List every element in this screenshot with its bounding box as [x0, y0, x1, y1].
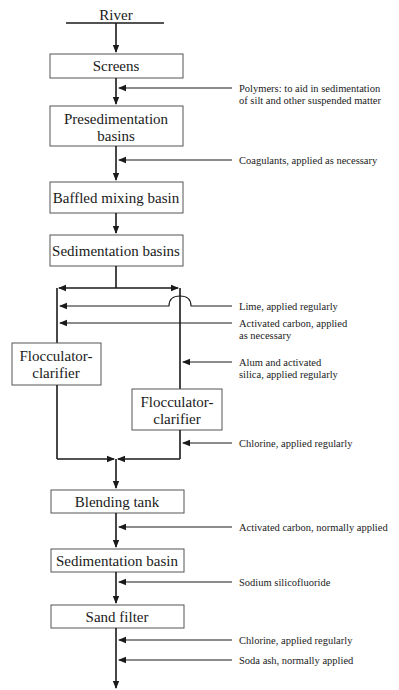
additive-label-lime: Lime, applied regularly: [239, 301, 339, 312]
process-label-sand-filter: Sand filter: [86, 609, 149, 625]
process-label-screens: Screens: [93, 58, 140, 74]
process-label-flocculator-left-2: clarifier: [32, 365, 79, 381]
additive-label-polymers-2: of silt and other suspended matter: [239, 95, 382, 106]
additive-label-alum-silica-1: Alum and activated: [239, 357, 322, 368]
process-label-flocculator-right-1: Flocculator-: [140, 394, 213, 410]
process-label-sedimentation-basins: Sedimentation basins: [52, 243, 180, 259]
additive-label-coagulants: Coagulants, applied as necessary: [239, 155, 378, 166]
additive-label-sodium-silicofluoride: Sodium silicofluoride: [239, 577, 331, 588]
additive-arrow-lime: [60, 296, 232, 306]
source-label-river: River: [99, 7, 132, 23]
additive-label-activated-carbon-2: Activated carbon, normally applied: [239, 522, 388, 533]
additive-label-soda-ash: Soda ash, normally applied: [239, 655, 354, 666]
additive-label-polymers-1: Polymers: to aid in sedimentation: [239, 83, 381, 94]
process-label-flocculator-right-2: clarifier: [153, 411, 200, 427]
process-label-sedimentation-basin: Sedimentation basin: [56, 553, 179, 569]
additive-label-activated-carbon-1a: Activated carbon, applied: [239, 318, 348, 329]
additive-label-alum-silica-2: silica, applied regularly: [239, 369, 339, 380]
process-label-presedimentation-1: Presedimentation: [64, 111, 169, 127]
process-label-presedimentation-2: basins: [97, 128, 135, 144]
water-treatment-flow-diagram: River Screens Polymers: to aid in sedime…: [0, 0, 399, 690]
process-label-blending-tank: Blending tank: [75, 494, 160, 510]
additive-label-chlorine-1: Chlorine, applied regularly: [239, 438, 353, 449]
process-label-flocculator-left-1: Flocculator-: [19, 348, 92, 364]
additive-label-chlorine-2: Chlorine, applied regularly: [239, 635, 353, 646]
additive-label-activated-carbon-1b: as necessary: [239, 330, 292, 341]
process-label-baffled-mixing-basin: Baffled mixing basin: [53, 190, 180, 206]
